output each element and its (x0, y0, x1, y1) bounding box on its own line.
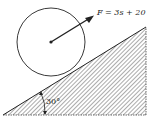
force-arrow (51, 16, 94, 43)
diagram-canvas (0, 0, 148, 123)
angle-label: 30° (46, 97, 60, 106)
incline-wedge (3, 27, 146, 115)
force-label: F = 3s + 20 (97, 8, 146, 17)
